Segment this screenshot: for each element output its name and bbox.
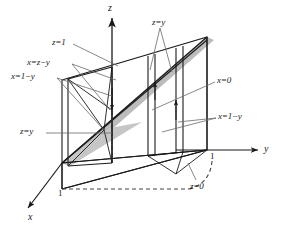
axis-label-y: y <box>264 144 268 154</box>
axis-label-x: x <box>28 212 32 222</box>
shaded-wedge <box>62 37 214 166</box>
label-z-equals-0: z=0 <box>190 182 203 191</box>
label-z-equals-1: z=1 <box>52 38 65 47</box>
axis-label-z: z <box>108 3 112 13</box>
tick-label-y-1: 1 <box>210 152 214 161</box>
label-z-equals-y-left: z=y <box>20 127 33 136</box>
slab-base-connectors <box>148 150 207 174</box>
tick-label-x-1: 1 <box>58 189 62 198</box>
diagram-canvas <box>0 0 287 233</box>
label-x-equals-1-minus-y-right: x=1−y <box>218 112 242 121</box>
label-x-equals-0: x=0 <box>217 76 231 85</box>
label-x-equals-z-minus-y: x=z−y <box>27 58 50 67</box>
axis-x <box>28 163 62 208</box>
label-z-equals-y-top: z=y <box>152 18 165 27</box>
label-x-equals-1-minus-y-left: x=1−y <box>11 72 35 81</box>
math-figure: z y x 1 1 z=1 x=z−y x=1−y z=y z=y x=0 x=… <box>0 0 287 233</box>
